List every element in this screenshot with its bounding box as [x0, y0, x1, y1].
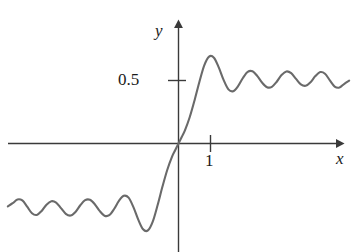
x-tick-label-1: 1: [205, 152, 214, 169]
y-axis-label: y: [155, 22, 163, 39]
x-axis-label: x: [336, 150, 344, 167]
y-tick-label-0.5: 0.5: [118, 71, 139, 88]
plot-canvas: [0, 0, 358, 252]
fresnel-integral-figure: y x 0.5 1: [0, 0, 358, 252]
